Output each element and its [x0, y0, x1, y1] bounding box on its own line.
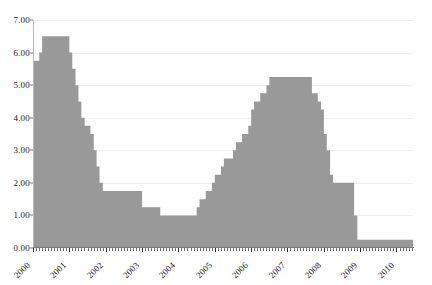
x-axis-minor-tick: [130, 248, 131, 251]
y-axis-tick-mark: [30, 85, 33, 86]
x-axis-minor-tick: [175, 248, 176, 251]
x-axis-minor-tick: [145, 248, 146, 251]
x-axis-minor-tick: [97, 248, 98, 251]
x-axis-tick-label: 2001: [48, 260, 68, 280]
x-axis-minor-tick: [45, 248, 46, 251]
x-axis-minor-tick: [275, 248, 276, 251]
x-axis-minor-tick: [294, 248, 295, 251]
y-axis-tick-mark: [30, 52, 33, 53]
y-axis-tick-mark: [30, 215, 33, 216]
x-axis-minor-tick: [148, 248, 149, 251]
x-axis-tick-label: 2009: [339, 260, 359, 280]
x-axis-minor-tick: [163, 248, 164, 251]
x-axis-minor-tick: [139, 248, 140, 251]
x-axis-minor-tick: [333, 248, 334, 251]
x-axis-minor-tick: [78, 248, 79, 251]
x-axis-minor-tick: [160, 248, 161, 251]
x-axis-minor-tick: [348, 248, 349, 251]
x-axis-minor-tick: [81, 248, 82, 251]
x-axis-minor-tick: [187, 248, 188, 251]
x-axis-minor-tick: [191, 248, 192, 251]
y-axis-tick-labels: 0.001.002.003.004.005.006.007.00: [0, 0, 30, 285]
x-axis-minor-tick: [260, 248, 261, 251]
x-axis-minor-tick: [303, 248, 304, 251]
x-axis-minor-tick: [400, 248, 401, 251]
y-axis-tick-label: 5.00: [13, 80, 30, 90]
y-axis-tick-label: 4.00: [13, 113, 30, 123]
y-axis-tick-label: 6.00: [13, 48, 30, 58]
x-axis-minor-tick: [133, 248, 134, 251]
x-axis-minor-tick: [278, 248, 279, 251]
x-axis-minor-tick: [284, 248, 285, 251]
x-axis-minor-tick: [266, 248, 267, 251]
y-axis-line: [33, 20, 34, 248]
x-axis-minor-tick: [318, 248, 319, 251]
x-axis-minor-tick: [254, 248, 255, 251]
x-axis-minor-tick: [281, 248, 282, 251]
x-axis-minor-tick: [315, 248, 316, 251]
x-axis-minor-tick: [369, 248, 370, 251]
x-axis-tick-label: 2008: [303, 260, 323, 280]
x-axis-tick-label: 2007: [266, 260, 286, 280]
x-axis-minor-tick: [200, 248, 201, 251]
x-axis-minor-tick: [75, 248, 76, 251]
x-axis-minor-tick: [345, 248, 346, 251]
x-axis-minor-tick: [297, 248, 298, 251]
x-axis-minor-tick: [342, 248, 343, 251]
x-axis-minor-tick: [72, 248, 73, 251]
x-axis-minor-tick: [403, 248, 404, 251]
x-axis-minor-tick: [48, 248, 49, 251]
y-axis-tick-label: 7.00: [13, 15, 30, 25]
x-axis-minor-tick: [409, 248, 410, 251]
x-axis-tick-label: 2003: [121, 260, 141, 280]
x-axis-minor-tick: [233, 248, 234, 251]
x-axis-minor-tick: [127, 248, 128, 251]
x-axis-minor-tick: [412, 248, 413, 251]
x-axis-minor-tick: [357, 248, 358, 251]
y-axis-tick-label: 3.00: [13, 145, 30, 155]
x-axis-minor-tick: [309, 248, 310, 251]
x-axis-minor-tick: [169, 248, 170, 251]
x-axis-tick-label: 2005: [194, 260, 214, 280]
x-axis-minor-tick: [354, 248, 355, 251]
x-axis-minor-tick: [203, 248, 204, 251]
x-axis-minor-tick: [339, 248, 340, 251]
x-axis-minor-tick: [272, 248, 273, 251]
x-axis-minor-tick: [103, 248, 104, 251]
x-axis-minor-tick: [321, 248, 322, 251]
x-axis-minor-tick: [257, 248, 258, 251]
x-axis-minor-tick: [54, 248, 55, 251]
x-axis-minor-tick: [242, 248, 243, 251]
x-axis-minor-tick: [197, 248, 198, 251]
x-axis-minor-tick: [221, 248, 222, 251]
x-axis-minor-tick: [269, 248, 270, 251]
x-axis-minor-tick: [181, 248, 182, 251]
x-axis-minor-tick: [88, 248, 89, 251]
x-axis-minor-tick: [218, 248, 219, 251]
series-area-federal-funds-rate: [33, 20, 413, 248]
y-axis-tick-mark: [30, 182, 33, 183]
x-axis-minor-tick: [330, 248, 331, 251]
x-axis-minor-tick: [206, 248, 207, 251]
x-axis-tick-label: 2010: [375, 260, 395, 280]
x-axis-minor-tick: [60, 248, 61, 251]
x-axis-minor-tick: [172, 248, 173, 251]
chart-container: 0.001.002.003.004.005.006.007.00 2000200…: [0, 0, 432, 285]
x-axis-minor-tick: [336, 248, 337, 251]
x-axis-minor-tick: [390, 248, 391, 251]
x-axis-minor-tick: [300, 248, 301, 251]
x-axis-minor-tick: [224, 248, 225, 251]
y-axis-tick-label: 0.00: [13, 243, 30, 253]
x-axis-minor-tick: [124, 248, 125, 251]
y-axis-tick-mark: [30, 150, 33, 151]
plot-area: [33, 20, 413, 248]
x-axis-minor-tick: [363, 248, 364, 251]
x-axis-minor-tick: [327, 248, 328, 251]
x-axis-minor-tick: [136, 248, 137, 251]
x-axis-minor-tick: [109, 248, 110, 251]
x-axis-minor-tick: [91, 248, 92, 251]
x-axis-minor-tick: [290, 248, 291, 251]
x-axis-minor-tick: [366, 248, 367, 251]
x-axis-minor-tick: [372, 248, 373, 251]
x-axis-minor-tick: [378, 248, 379, 251]
